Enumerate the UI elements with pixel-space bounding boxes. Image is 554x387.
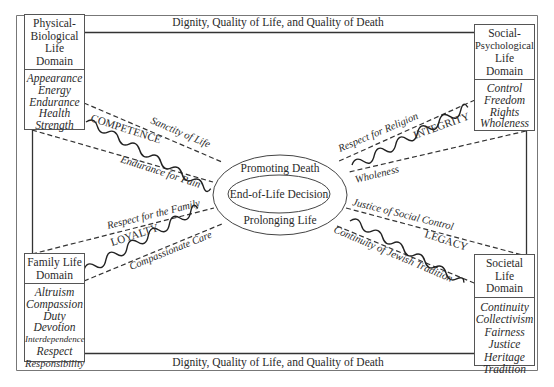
legacy-upper: Justice of Social Control bbox=[352, 196, 455, 232]
heading-line: Societal Life bbox=[475, 257, 534, 282]
integrity-lower: Wholeness bbox=[354, 163, 400, 185]
heading-line: Physical- bbox=[25, 17, 84, 30]
value-item: Tradition bbox=[475, 363, 534, 376]
domain-values: Appearance Energy Endurance Health Stren… bbox=[25, 70, 84, 134]
social-psychological-domain-box: Social- Psychological Life Domain Contro… bbox=[474, 24, 535, 131]
heading-line: Social- bbox=[475, 27, 534, 40]
value-item: Strength bbox=[25, 120, 84, 132]
top-banner: Dignity, Quality of Life, and Quality of… bbox=[150, 16, 406, 28]
value-item: Respect bbox=[25, 346, 84, 358]
integrity-label: INTEGRITY bbox=[412, 110, 471, 141]
integrity-upper: Respect for Religion bbox=[336, 110, 420, 154]
domain-heading: Societal Life Domain bbox=[475, 255, 534, 298]
heading-line: Domain bbox=[25, 269, 84, 282]
value-item: Heritage bbox=[475, 351, 534, 364]
value-item: Responsibility bbox=[25, 358, 84, 370]
value-item: Collectivism bbox=[475, 313, 534, 326]
value-item: Continuity bbox=[475, 301, 534, 314]
physical-biological-domain-box: Physical- Biological Life Domain Appeara… bbox=[24, 14, 85, 130]
heading-line: Family Life bbox=[25, 256, 84, 269]
domain-values: Altruism Compassion Duty Devotion Interd… bbox=[25, 284, 84, 372]
bottom-banner: Dignity, Quality of Life, and Quality of… bbox=[150, 356, 406, 368]
value-item: Devotion bbox=[25, 322, 84, 334]
value-item: Compassion bbox=[25, 299, 84, 311]
prolonging-life-label: Prolonging Life bbox=[243, 214, 316, 227]
legacy-label: LEGACY bbox=[423, 227, 469, 252]
family-domain-box: Family Life Domain Altruism Compassion D… bbox=[24, 253, 85, 362]
heading-line: Psychological bbox=[475, 40, 534, 53]
domain-values: Control Freedom Rights Wholeness bbox=[475, 80, 534, 132]
heading-line: Life Domain bbox=[475, 52, 534, 77]
societal-domain-box: Societal Life Domain Continuity Collecti… bbox=[474, 254, 535, 366]
heading-line: Domain bbox=[475, 282, 534, 295]
domain-heading: Physical- Biological Life Domain bbox=[25, 15, 84, 70]
domain-values: Continuity Collectivism Fairness Justice… bbox=[475, 298, 534, 378]
value-item: Justice bbox=[475, 338, 534, 351]
value-item: Wholeness bbox=[475, 118, 534, 130]
value-item: Freedom bbox=[475, 95, 534, 107]
heading-line: Life Domain bbox=[25, 42, 84, 67]
end-of-life-decision-label: End-of-Life Decision bbox=[230, 188, 329, 200]
heading-line: Biological bbox=[25, 30, 84, 43]
value-item: Fairness bbox=[475, 326, 534, 339]
domain-heading: Social- Psychological Life Domain bbox=[475, 25, 534, 80]
promoting-death-label: Promoting Death bbox=[241, 162, 320, 175]
domain-heading: Family Life Domain bbox=[25, 254, 84, 284]
value-item: Energy bbox=[25, 85, 84, 97]
competence-lower: Endurance for Pain bbox=[118, 153, 202, 190]
